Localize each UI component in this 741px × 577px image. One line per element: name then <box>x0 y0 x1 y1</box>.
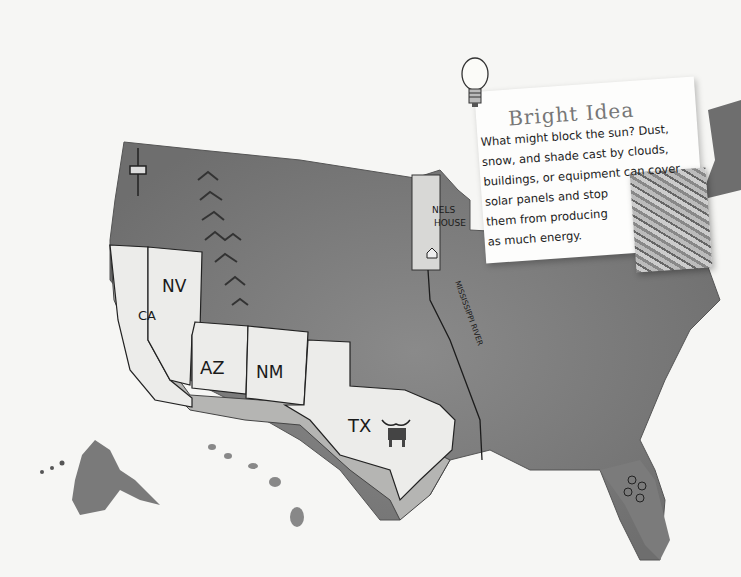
label-nv: NV <box>162 276 187 296</box>
alaska <box>72 440 160 515</box>
label-ca: CA <box>138 308 156 323</box>
label-house: HOUSE <box>434 218 466 228</box>
label-az: AZ <box>200 357 225 378</box>
lightbulb-icon <box>458 56 492 114</box>
label-nels: NELS <box>432 205 455 215</box>
hawaii <box>208 444 304 527</box>
label-nm: NM <box>256 362 283 382</box>
label-tx: TX <box>347 415 371 436</box>
callout-body: What might block the sun? Dust, snow, an… <box>480 116 718 252</box>
